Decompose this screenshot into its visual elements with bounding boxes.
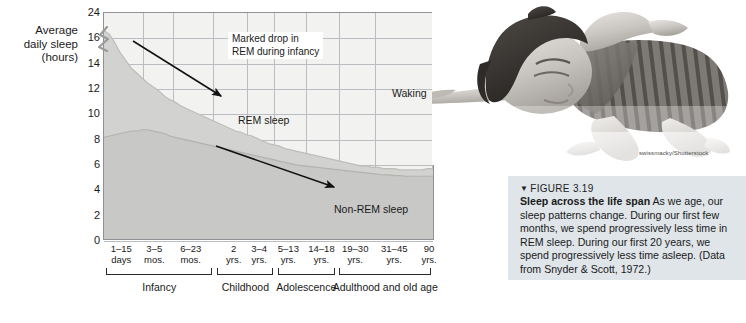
x-tick-label-3-line-1: 2	[226, 243, 241, 254]
figure-number: FIGURE 3.19	[530, 183, 593, 194]
x-tick-label-7-line-1: 19–30	[342, 243, 368, 254]
x-tick-label-9-line-1: 90	[421, 243, 436, 254]
x-tick-label-6: 14–18yrs.	[308, 243, 334, 265]
y-axis-title-line-3: (hours)	[2, 51, 78, 65]
x-tick-label-7: 19–30yrs.	[342, 243, 368, 265]
stage-bracket-2	[278, 268, 335, 275]
x-tick-label-8-line-2: yrs.	[381, 254, 407, 265]
y-tick-24: 24	[76, 6, 100, 18]
x-tick-label-4: 3–4yrs.	[251, 243, 267, 265]
annotation-marked-drop: Marked drop in REM during infancy	[228, 32, 323, 59]
stage-label-2: Adolescence	[276, 281, 336, 293]
x-tick-label-2: 6–23mos.	[180, 243, 201, 265]
y-tick-6: 6	[76, 158, 100, 170]
stage-label-1: Childhood	[222, 281, 269, 293]
stage-bracket-0	[106, 268, 212, 275]
y-tick-10: 10	[76, 107, 100, 119]
figure-caption: ▼FIGURE 3.19 Sleep across the life span …	[508, 176, 746, 280]
figure-caption-body: Sleep across the life span As we age, ou…	[520, 195, 736, 277]
y-axis-break-icon	[96, 26, 112, 52]
x-tick-label-9-line-2: yrs.	[421, 254, 436, 265]
x-tick-label-6-line-1: 14–18	[308, 243, 334, 254]
chart-area: 024681012141624 Marked drop in REM durin…	[84, 12, 434, 240]
x-tick-label-4-line-2: yrs.	[251, 254, 267, 265]
x-tick-label-2-line-1: 6–23	[180, 243, 201, 254]
x-tick-label-5-line-2: yrs.	[278, 254, 299, 265]
photo-credit: swissmacky/Shutterstock	[639, 150, 708, 156]
caption-triangle-icon: ▼	[520, 184, 528, 193]
x-tick-label-2-line-2: mos.	[180, 254, 201, 265]
x-tick-label-1-line-1: 3–5	[144, 243, 165, 254]
plot-area: Marked drop in REM during infancy REM sl…	[103, 12, 434, 240]
life-stage-labels: InfancyChildhoodAdolescenceAdulthood and…	[84, 281, 434, 297]
y-tick-12: 12	[76, 82, 100, 94]
x-tick-label-1-line-2: mos.	[144, 254, 165, 265]
y-axis-title: Average daily sleep (hours)	[2, 24, 78, 65]
x-tick-label-5-line-1: 5–13	[278, 243, 299, 254]
stage-bracket-1	[217, 268, 273, 275]
stage-label-3: Adulthood and old age	[333, 281, 438, 293]
annotation-waking: Waking	[392, 87, 427, 99]
stage-bracket-3	[339, 268, 431, 275]
x-tick-label-0-line-2: days	[111, 254, 132, 265]
annotation-marked-drop-line-2: REM during infancy	[232, 46, 319, 57]
y-tick-2: 2	[76, 209, 100, 221]
stage-label-0: Infancy	[142, 281, 176, 293]
figure-sleep-across-life-span: Average daily sleep (hours) 024681012141…	[0, 0, 746, 323]
y-axis-title-line-1: Average	[2, 24, 78, 38]
x-tick-label-7-line-2: yrs.	[342, 254, 368, 265]
x-tick-label-8: 31–45yrs.	[381, 243, 407, 265]
x-axis-tick-labels: 1–15days3–5mos.6–23mos.2yrs.3–4yrs.5–13y…	[84, 243, 434, 267]
x-tick-label-0-line-1: 1–15	[111, 243, 132, 254]
x-tick-label-3: 2yrs.	[226, 243, 241, 265]
x-tick-label-3-line-2: yrs.	[226, 254, 241, 265]
x-tick-label-6-line-2: yrs.	[308, 254, 334, 265]
annotation-marked-drop-line-1: Marked drop in	[232, 33, 299, 44]
figure-caption-title: Sleep across the life span	[520, 195, 650, 207]
annotation-rem-sleep: REM sleep	[238, 114, 289, 126]
figure-caption-heading: ▼FIGURE 3.19	[520, 183, 736, 194]
annotation-non-rem-sleep: Non-REM sleep	[334, 203, 408, 215]
y-axis-title-line-2: daily sleep	[2, 38, 78, 52]
y-tick-8: 8	[76, 133, 100, 145]
sleeping-child-photo	[432, 0, 746, 165]
x-tick-label-9: 90yrs.	[421, 243, 436, 265]
gridline-h-0	[104, 241, 433, 242]
x-tick-label-0: 1–15days	[111, 243, 132, 265]
life-stage-brackets	[84, 268, 434, 280]
x-tick-label-1: 3–5mos.	[144, 243, 165, 265]
y-tick-4: 4	[76, 183, 100, 195]
x-tick-label-5: 5–13yrs.	[278, 243, 299, 265]
x-tick-label-4-line-1: 3–4	[251, 243, 267, 254]
x-tick-label-8-line-1: 31–45	[381, 243, 407, 254]
y-tick-14: 14	[76, 57, 100, 69]
